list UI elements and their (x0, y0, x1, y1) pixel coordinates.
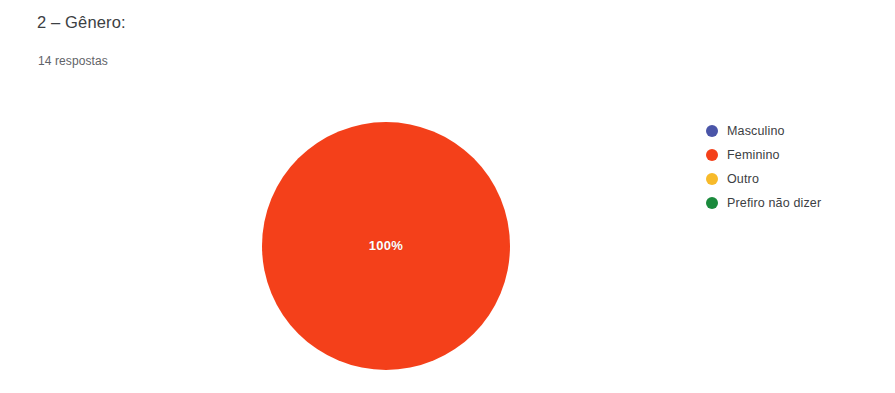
legend-item-masculino[interactable]: Masculino (706, 119, 891, 143)
legend-item-prefiro-nao-dizer[interactable]: Prefiro não dizer (706, 191, 891, 215)
legend-swatch-icon-outro (706, 173, 718, 185)
chart-legend: Masculino Feminino Outro Prefiro não diz… (706, 119, 891, 215)
pie-chart: 100% (262, 122, 510, 370)
page-title: 2 – Gênero: (37, 11, 126, 33)
pie-slice-percentage-label: 100% (262, 238, 510, 254)
legend-label-feminino: Feminino (727, 147, 780, 163)
legend-swatch-icon-masculino (706, 125, 718, 137)
chart-card: 2 – Gênero: 14 respostas 100% Masculino … (0, 0, 895, 393)
legend-label-prefiro-nao-dizer: Prefiro não dizer (727, 195, 821, 211)
legend-item-feminino[interactable]: Feminino (706, 143, 891, 167)
response-count-label: 14 respostas (38, 53, 108, 69)
legend-swatch-icon-feminino (706, 149, 718, 161)
legend-label-masculino: Masculino (727, 123, 785, 139)
legend-swatch-icon-prefiro-nao-dizer (706, 197, 718, 209)
plot-area: 100% (0, 95, 690, 393)
legend-label-outro: Outro (727, 171, 759, 187)
legend-item-outro[interactable]: Outro (706, 167, 891, 191)
